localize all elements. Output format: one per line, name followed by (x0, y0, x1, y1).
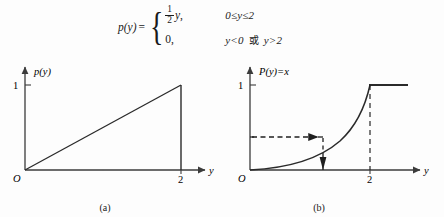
formula-case-2-comma: , (171, 33, 174, 45)
figure-b-y-tick-label: 1 (238, 80, 243, 91)
formula-case-1-value: 1 2 y , (165, 5, 199, 26)
formula-brace: { (150, 11, 163, 44)
fraction-numerator: 1 (165, 5, 174, 15)
figure-page: p(y) = { 1 2 y , 0≤y≤2 0 , (0, 0, 444, 217)
one-half-fraction: 1 2 (165, 5, 174, 26)
figure-a-density-plot: p(y) y 1 2 O (a) (0, 55, 222, 217)
figure-b-cdf-plot: P(y)=x y 1 2 O (b) (222, 55, 444, 217)
figure-b-cdf-curve (250, 85, 370, 170)
formula-case-1-condition: 0≤y≤2 (199, 9, 254, 21)
formula-case-2-condition-right: y>2 (264, 34, 282, 46)
pdf-formula: p(y) = { 1 2 y , 0≤y≤2 0 , (118, 2, 348, 52)
figure-b-y-axis-label: P(y)=x (258, 66, 289, 78)
formula-case-2-condition-left: y<0 (225, 34, 243, 46)
fraction-denominator: 2 (165, 15, 174, 26)
figure-a-x-tick-label: 2 (178, 174, 183, 185)
figure-a-x-axis-label: y (208, 165, 214, 176)
formula-cases: 1 2 y , 0≤y≤2 0 , y<0 或 y>2 (164, 6, 282, 48)
figure-b-x-axis-label: y (423, 165, 429, 176)
formula-case-2-condition: y<0 或 y>2 (199, 32, 282, 47)
formula-lhs: p(y) (118, 21, 138, 33)
figure-a-origin-label: O (13, 173, 21, 184)
formula-case-1-comma: , (180, 9, 183, 21)
formula-case-1: 1 2 y , 0≤y≤2 (165, 6, 282, 24)
formula-case-2-conjunction: 或 (247, 35, 261, 46)
figure-a-density-line (25, 85, 181, 170)
figure-a-caption: (a) (0, 202, 216, 213)
figure-b-svg: P(y)=x y 1 2 O (222, 55, 444, 205)
figure-b-x-tick-label: 2 (367, 174, 372, 185)
formula-equals-sign: = (138, 21, 148, 33)
formula-case-2: 0 , y<0 或 y>2 (165, 30, 282, 48)
figure-a-svg: p(y) y 1 2 O (0, 55, 222, 205)
figure-a-axis-midpoint-dot (102, 169, 103, 170)
figure-b-caption: (b) (208, 202, 430, 213)
figure-a-y-axis-label: p(y) (33, 66, 51, 78)
formula-case-2-value: 0 , (165, 33, 199, 45)
figure-b-origin-label: O (238, 173, 246, 184)
figure-a-y-tick-label: 1 (13, 80, 18, 91)
